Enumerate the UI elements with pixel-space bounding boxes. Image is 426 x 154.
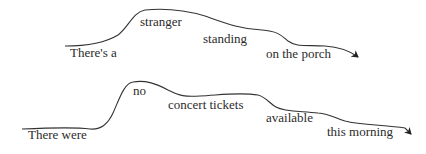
- phrase-word: There were: [28, 128, 87, 141]
- phrase-word: no: [133, 84, 146, 97]
- phrase-word: There's a: [70, 46, 117, 59]
- phrase-word: stranger: [140, 15, 182, 28]
- phrase-word: standing: [203, 32, 247, 45]
- phrase-word: on the porch: [266, 47, 331, 60]
- phrase-word: this morning: [327, 125, 393, 138]
- phrase-word: concert tickets: [168, 98, 243, 111]
- phrase-word: available: [266, 111, 313, 124]
